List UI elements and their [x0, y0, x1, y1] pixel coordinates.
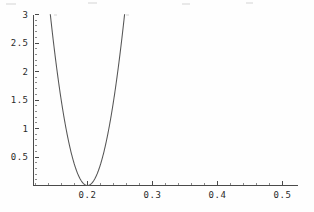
y-tick-label: 1 — [23, 124, 29, 134]
x-axis-tick-labels: 0.20.30.40.5 — [79, 190, 292, 200]
y-tick-label: 0.5 — [11, 152, 29, 162]
y-tick-label: 3 — [23, 10, 29, 20]
y-axis-tick-labels: 0.511.522.53 — [11, 10, 29, 163]
plot-svg: 0.511.522.53 0.20.30.40.5 — [0, 0, 314, 212]
y-tick-label: 1.5 — [11, 95, 29, 105]
x-tick-label: 0.2 — [79, 190, 97, 200]
data-series-parabola — [50, 15, 124, 186]
x-tick-label: 0.4 — [209, 190, 227, 200]
x-tick-label: 0.3 — [144, 190, 162, 200]
y-tick-label: 2 — [23, 67, 29, 77]
x-tick-label: 0.5 — [274, 190, 292, 200]
y-axis-major-ticks — [35, 15, 39, 158]
chart-canvas: 0.511.522.53 0.20.30.40.5 — [0, 0, 314, 212]
y-tick-label: 2.5 — [11, 38, 29, 48]
x-axis-minor-ticks — [35, 183, 282, 185]
x-axis-major-ticks — [34, 181, 283, 185]
